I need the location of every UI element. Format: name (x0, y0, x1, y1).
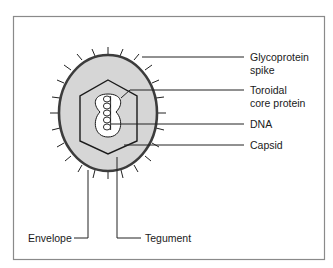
label-toroidal-line2: core protein (250, 97, 306, 109)
label-tegument: Tegument (145, 232, 191, 244)
label-capsid: Capsid (250, 139, 283, 151)
label-glycoprotein-line2: spike (250, 64, 275, 76)
label-dna: DNA (250, 118, 272, 130)
virus-structure-diagram: Glycoprotein spike Toroidal core protein… (0, 0, 333, 268)
label-envelope: Envelope (28, 232, 72, 244)
label-toroidal-line1: Toroidal (250, 84, 287, 96)
label-glycoprotein-line1: Glycoprotein (250, 51, 309, 63)
